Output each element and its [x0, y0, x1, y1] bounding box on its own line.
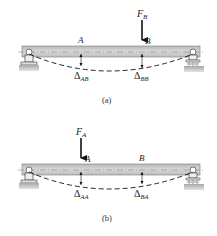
beam [22, 164, 200, 175]
caption-a: (a) [102, 95, 112, 105]
point-label-a: A [77, 35, 84, 45]
force-label: FA [75, 126, 87, 139]
caption-b: (b) [102, 213, 112, 223]
point-label-a: A [84, 154, 91, 164]
deflection-label-ba: ΔBA [134, 188, 148, 200]
deflection-label-aa: ΔAA [74, 188, 88, 200]
deflection-label-bb: ΔBB [134, 70, 148, 82]
beam [22, 46, 200, 57]
force-label: FB [136, 8, 148, 21]
point-label-b: B [139, 153, 145, 163]
betti-maxwell-diagram: FB A B ΔAB ΔBB (a) [0, 0, 217, 236]
diagram-a: FB A B ΔAB ΔBB (a) [18, 8, 204, 105]
diagram-b: FA A B ΔAA ΔBA (b) [18, 126, 204, 223]
deflection-label-ab: ΔAB [74, 70, 88, 82]
point-label-b: B [145, 36, 151, 46]
